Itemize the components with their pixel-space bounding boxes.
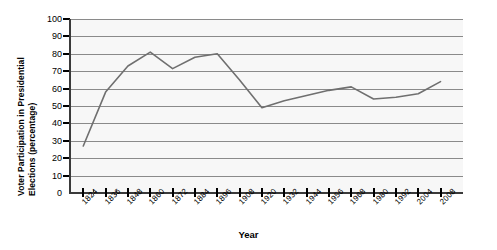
y-tick-label: 20 (52, 153, 62, 163)
y-tick-label: 50 (52, 101, 62, 111)
voter-participation-line-chart: Voter Participation in Presidential Elec… (0, 0, 497, 250)
y-tick-label: 70 (52, 66, 62, 76)
y-axis-title: Voter Participation in Presidential Elec… (0, 0, 40, 200)
y-tick-label: 0 (57, 188, 62, 198)
y-tick-label: 60 (52, 84, 62, 94)
y-tick-label: 90 (52, 31, 62, 41)
y-tick-label: 10 (52, 171, 62, 181)
plot-area (70, 19, 463, 193)
y-axis-tick-labels: 1009080706050403020100 (36, 0, 62, 200)
y-tick-label: 100 (47, 14, 62, 24)
y-tick-label: 40 (52, 118, 62, 128)
y-tick-label: 80 (52, 49, 62, 59)
data-line-series (71, 19, 463, 193)
y-axis-title-line-1: Voter Participation in Presidential (16, 6, 26, 196)
x-axis-title: Year (0, 229, 497, 240)
y-tick-label: 30 (52, 136, 62, 146)
